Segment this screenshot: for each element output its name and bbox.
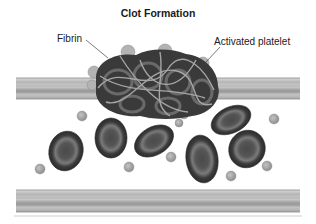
platelet [226, 171, 236, 181]
platelet [269, 114, 279, 124]
platelet [175, 119, 183, 127]
platelet [124, 162, 134, 172]
lower-vessel-wall [14, 190, 302, 216]
red-blood-cell [44, 127, 87, 174]
clot-formation-illustration [0, 0, 316, 224]
red-blood-cell [95, 118, 127, 158]
platelet [166, 152, 176, 162]
platelet [35, 164, 45, 174]
platelet [77, 111, 87, 121]
activated-platelet-leader-line [206, 47, 220, 62]
clot-mass [87, 44, 219, 119]
fibrin-leader-line [86, 40, 108, 58]
red-blood-cell [183, 133, 221, 185]
platelet [262, 161, 272, 171]
